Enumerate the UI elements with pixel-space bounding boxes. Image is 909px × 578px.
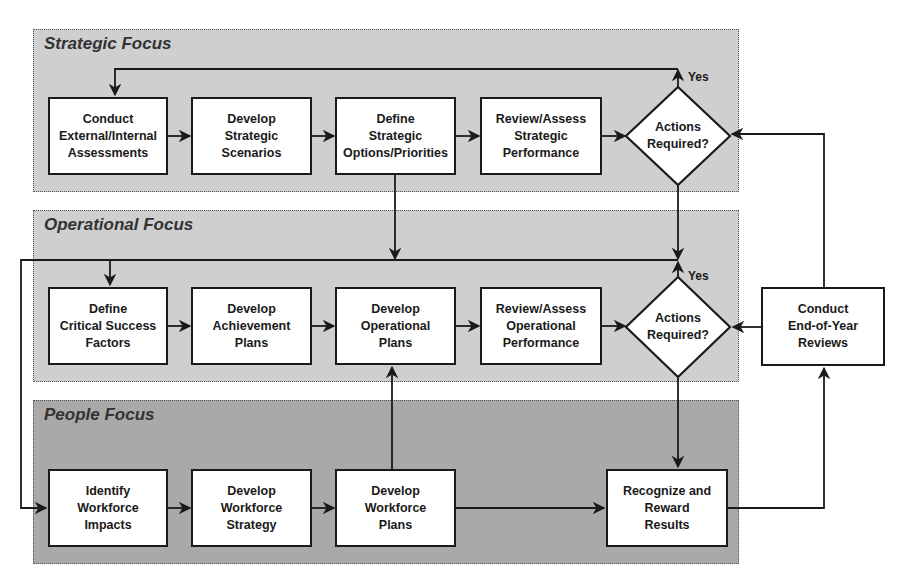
operational-yes-label: Yes [688, 269, 709, 283]
operational-decision-label: Actions Required? [628, 303, 728, 351]
recognize-reward-results-box: Recognize and Reward Results [606, 469, 728, 547]
develop-workforce-strategy-box: Develop Workforce Strategy [191, 469, 312, 547]
define-strategic-options-box: Define Strategic Options/Priorities [335, 97, 456, 175]
conduct-assessments-box: Conduct External/Internal Assessments [48, 97, 168, 175]
develop-workforce-plans-box: Develop Workforce Plans [335, 469, 456, 547]
strategic-yes-label: Yes [688, 70, 709, 84]
conduct-end-of-year-reviews-box: Conduct End-of-Year Reviews [761, 287, 885, 366]
strategic-decision-label: Actions Required? [628, 112, 728, 160]
develop-achievement-plans-box: Develop Achievement Plans [191, 287, 312, 365]
define-critical-success-factors-box: Define Critical Success Factors [48, 287, 168, 365]
develop-operational-plans-box: Develop Operational Plans [335, 287, 456, 365]
develop-strategic-scenarios-box: Develop Strategic Scenarios [191, 97, 312, 175]
identify-workforce-impacts-box: Identify Workforce Impacts [48, 469, 168, 547]
review-strategic-performance-box: Review/Assess Strategic Performance [480, 97, 602, 175]
review-operational-performance-box: Review/Assess Operational Performance [480, 287, 602, 365]
